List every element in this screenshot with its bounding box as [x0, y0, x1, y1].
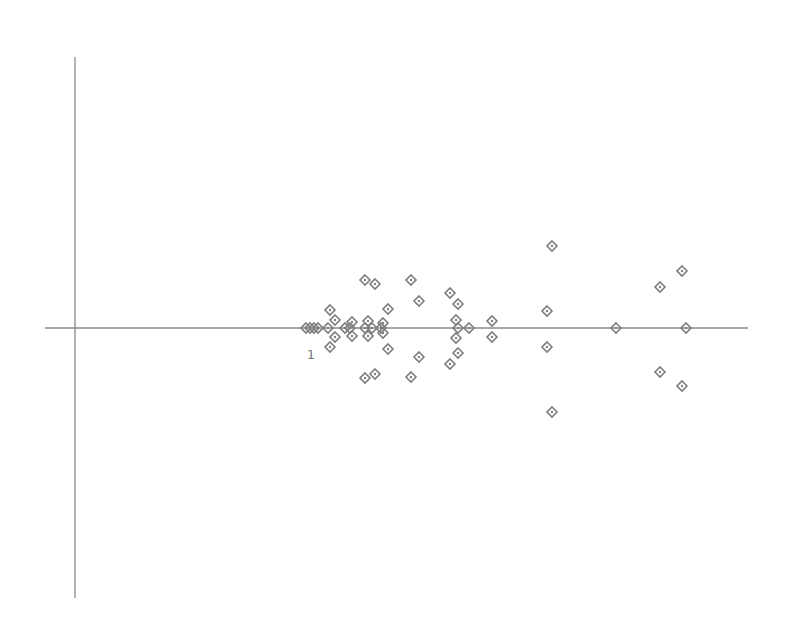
diamond-marker — [378, 328, 388, 338]
diamond-marker — [655, 367, 665, 377]
diamond-marker — [547, 407, 557, 417]
diamond-marker — [383, 344, 393, 354]
diamond-marker — [330, 315, 340, 325]
diamond-marker — [360, 275, 370, 285]
diamond-marker — [370, 279, 380, 289]
diamond-marker — [406, 275, 416, 285]
diamond-marker — [445, 359, 455, 369]
diamond-marker — [655, 282, 665, 292]
diamond-marker — [325, 305, 335, 315]
data-points — [301, 241, 691, 417]
diamond-marker — [542, 342, 552, 352]
diamond-marker — [360, 373, 370, 383]
diamond-marker — [378, 318, 388, 328]
diamond-marker — [547, 241, 557, 251]
diamond-marker — [383, 304, 393, 314]
diamond-marker — [453, 299, 463, 309]
diamond-marker — [542, 306, 552, 316]
diamond-marker — [406, 372, 416, 382]
diamond-marker — [325, 342, 335, 352]
diamond-marker — [414, 296, 424, 306]
diamond-marker — [330, 332, 340, 342]
diamond-marker — [487, 316, 497, 326]
axis-label: 1 — [307, 347, 315, 362]
scatter-plot: 1 — [0, 0, 788, 630]
diamond-marker — [487, 332, 497, 342]
diamond-marker — [414, 352, 424, 362]
diamond-marker — [677, 381, 687, 391]
diamond-marker — [445, 288, 455, 298]
diamond-marker — [451, 333, 461, 343]
diamond-marker — [677, 266, 687, 276]
diamond-marker — [453, 348, 463, 358]
diamond-marker — [370, 369, 380, 379]
annotations: 1 — [307, 347, 315, 362]
